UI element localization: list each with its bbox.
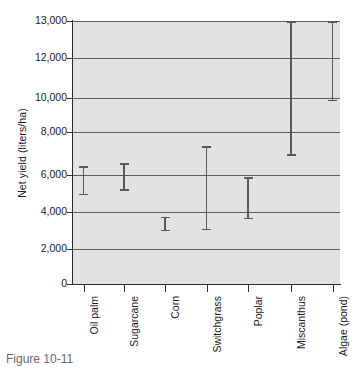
error-bar-oil-palm [79, 166, 88, 195]
error-bar-sugarcane [120, 163, 129, 191]
error-bar-upper-cap [244, 177, 253, 179]
error-bar-lower-cap [79, 194, 88, 196]
y-tick-label: 12,000 [7, 51, 67, 63]
error-bar-upper-cap [79, 166, 88, 168]
y-tick-mark [67, 284, 73, 285]
gridline [73, 21, 340, 22]
x-tick-mark [333, 285, 334, 292]
error-bar-upper-cap [120, 163, 129, 165]
error-bar-miscanthus [287, 21, 296, 156]
error-bar-stem [123, 163, 125, 191]
error-bar-corn [161, 217, 170, 232]
gridline [73, 249, 340, 250]
error-bar-upper-cap [161, 217, 170, 219]
error-bar-stem [206, 146, 208, 231]
y-tick-mark [67, 21, 73, 22]
y-tick-mark [67, 175, 73, 176]
error-bar-poplar [244, 177, 253, 220]
error-bar-upper-cap [287, 21, 296, 23]
error-bar-lower-cap [287, 154, 296, 156]
error-bar-upper-cap [328, 21, 337, 23]
gridline [73, 58, 340, 59]
y-tick-label: 2,000 [7, 242, 67, 254]
error-bar-switchgrass [202, 146, 211, 231]
y-tick-label: 6,000 [7, 168, 67, 180]
error-bar-algae-pond [328, 21, 337, 101]
y-tick-mark [67, 132, 73, 133]
x-tick-label: Switchgrass [211, 296, 223, 353]
error-bar-stem [290, 21, 292, 156]
x-tick-mark [291, 285, 292, 292]
y-tick-label: 0 [7, 277, 67, 289]
y-tick-mark [67, 58, 73, 59]
error-bar-lower-cap [120, 189, 129, 191]
x-tick-mark [124, 285, 125, 292]
x-tick-label: Oil palm [88, 296, 100, 335]
error-bar-lower-cap [202, 229, 211, 231]
gridline [73, 132, 340, 133]
error-bar-lower-cap [328, 100, 337, 102]
error-bar-lower-cap [244, 218, 253, 220]
x-tick-mark [165, 285, 166, 292]
y-tick-label: 13,000 [7, 14, 67, 26]
x-tick-label: Corn [169, 296, 181, 319]
x-tick-label: Poplar [252, 296, 264, 326]
error-bar-upper-cap [202, 146, 211, 148]
y-tick-label: 4,000 [7, 205, 67, 217]
gridline [73, 98, 340, 99]
x-tick-label: Miscanthus [295, 296, 307, 349]
error-bar-stem [83, 166, 85, 195]
y-tick-label: 8,000 [7, 125, 67, 137]
error-bar-stem [247, 177, 249, 220]
x-tick-mark [248, 285, 249, 292]
figure-caption: Figure 10-11 [6, 352, 73, 366]
y-axis-line [72, 20, 73, 285]
x-tick-label: Algae (pond) [337, 296, 349, 356]
error-bar-lower-cap [161, 230, 170, 232]
x-tick-label: Sugarcane [128, 296, 140, 347]
y-tick-label: 10,000 [7, 91, 67, 103]
bioenergy-net-yield-chart: Net yield (liters/ha) 13,00012,00010,000… [0, 0, 358, 369]
y-tick-mark [67, 98, 73, 99]
y-tick-mark [67, 212, 73, 213]
y-tick-mark [67, 249, 73, 250]
x-tick-mark [84, 285, 85, 292]
x-tick-mark [207, 285, 208, 292]
error-bar-stem [332, 21, 334, 101]
